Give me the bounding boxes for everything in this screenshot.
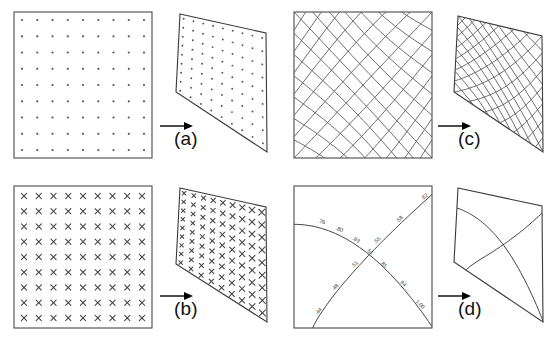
panel-c-svg <box>288 6 550 166</box>
panel-caption-a: (a) <box>174 128 198 150</box>
panel-d-svg: .76.80.83.51.85.941.00.44.48.51.55.58.62 <box>288 180 550 336</box>
panel-d: .76.80.83.51.85.941.00.44.48.51.55.58.62… <box>288 180 550 336</box>
panel-a-source <box>14 12 152 158</box>
panel-a: (a) <box>8 6 276 166</box>
figure-root: (a) (b) <box>0 0 553 340</box>
panel-d-source: .76.80.83.51.85.941.00.44.48.51.55.58.62 <box>294 186 432 334</box>
panel-caption-d: (d) <box>458 298 482 320</box>
panel-c: (c) <box>288 6 550 166</box>
panel-caption-b: (b) <box>174 298 198 320</box>
panel-a-svg <box>8 6 276 166</box>
panel-b: (b) <box>8 180 276 336</box>
source-square-frame <box>294 186 432 328</box>
panel-caption-c: (c) <box>458 128 481 150</box>
panel-b-source <box>14 186 152 328</box>
panel-b-svg <box>8 180 276 336</box>
